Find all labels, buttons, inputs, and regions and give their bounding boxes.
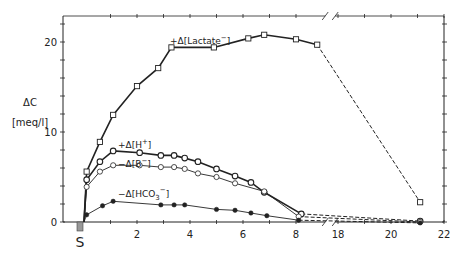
data-point-square	[111, 112, 116, 117]
x-tick-label: 8	[293, 229, 299, 240]
data-point-circle	[214, 166, 220, 172]
data-point-circle	[195, 159, 201, 165]
data-point-circle	[158, 153, 164, 159]
data-point-dot	[249, 211, 253, 215]
data-point-square	[315, 42, 320, 47]
data-point-square	[156, 66, 161, 71]
x-tick-label: 20	[385, 229, 398, 240]
data-point-dot	[172, 203, 176, 207]
data-point-circle	[182, 166, 187, 171]
data-point-circle	[84, 177, 90, 183]
x-tick-label: 22	[438, 229, 451, 240]
series-line	[84, 151, 301, 222]
data-point-circle	[214, 174, 219, 179]
x-tick-label: 4	[187, 229, 193, 240]
data-point-dot	[159, 203, 163, 207]
x-tick-label: 2	[134, 229, 140, 240]
data-point-square	[134, 84, 139, 89]
data-point-circle	[232, 181, 237, 186]
data-point-square	[84, 169, 89, 174]
data-point-circle	[195, 171, 200, 176]
data-point-circle	[110, 148, 116, 154]
y-tick-label: 20	[44, 37, 57, 48]
data-point-circle	[97, 159, 103, 165]
data-point-dot	[183, 203, 187, 207]
data-point-circle	[172, 165, 177, 170]
line-chart: 010202468182022S ΔC[meq/l]+Δ[Lactate−]+Δ…	[0, 0, 468, 255]
data-point-circle	[111, 163, 116, 168]
stimulus-marker	[77, 222, 83, 231]
data-point-circle	[262, 189, 267, 194]
y-axis-label: ΔC	[23, 97, 37, 108]
data-point-dot	[214, 207, 218, 211]
data-point-square	[246, 36, 251, 41]
series-label: +Δ[H+]	[118, 138, 151, 150]
data-point-dot	[111, 199, 115, 203]
data-point-dot	[265, 214, 269, 218]
data-point-circle	[248, 180, 254, 186]
series-line-dashed	[317, 45, 420, 203]
x-tick-label: 6	[240, 229, 246, 240]
data-point-square	[97, 139, 102, 144]
chart-labels: ΔC[meq/l]+Δ[Lactate−]+Δ[H+]−Δ[B−]−Δ[HCO3…	[12, 34, 230, 202]
y-tick-label: 10	[44, 127, 57, 138]
y-axis-unit-label: [meq/l]	[12, 117, 48, 128]
data-point-circle	[171, 153, 177, 159]
data-point-dot	[296, 218, 300, 222]
data-point-circle	[84, 184, 89, 189]
data-point-circle	[158, 165, 163, 170]
data-point-square	[418, 200, 423, 205]
data-point-dot	[100, 204, 104, 208]
y-tick-label: 0	[51, 217, 57, 228]
series-line	[84, 201, 299, 222]
series-label: −Δ[B−]	[118, 157, 151, 169]
data-point-dot	[84, 213, 88, 217]
stimulus-label: S	[76, 234, 85, 250]
data-point-circle	[97, 169, 102, 174]
data-point-square	[293, 37, 298, 42]
data-point-circle	[137, 150, 143, 156]
data-point-circle	[232, 173, 238, 179]
x-tick-label: 18	[332, 229, 345, 240]
data-point-dot	[418, 221, 422, 225]
series-label: −Δ[HCO3−]	[118, 186, 169, 202]
data-point-square	[262, 32, 267, 37]
data-point-circle	[182, 155, 188, 161]
data-point-dot	[233, 208, 237, 212]
series-label: +Δ[Lactate−]	[170, 34, 230, 46]
series-3	[84, 199, 422, 225]
